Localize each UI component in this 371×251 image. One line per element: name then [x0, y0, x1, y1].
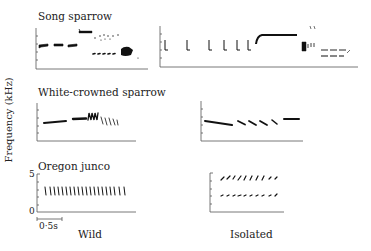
spectrogram-oregon-junco-wild [45, 187, 125, 195]
axes-song-sparrow-wild [36, 28, 148, 69]
axes-white-crowned-isolated [201, 101, 303, 141]
spectrogram-song-sparrow-isolated [165, 26, 350, 56]
spectrogram-white-crowned-isolated [205, 119, 299, 125]
axes-song-sparrow-isolated [160, 26, 358, 67]
time-scale-bar [37, 217, 62, 221]
spectrogram-song-sparrow-wild [39, 29, 139, 59]
spectrogram-figure [0, 0, 371, 251]
spectrogram-oregon-junco-isolated [221, 176, 277, 196]
spectrogram-white-crowned-wild [44, 113, 118, 125]
axes-oregon-junco-isolated [210, 173, 284, 212]
